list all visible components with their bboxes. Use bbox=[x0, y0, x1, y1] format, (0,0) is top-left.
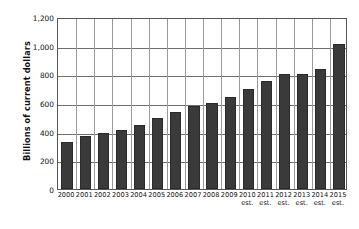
gridline-vertical bbox=[76, 19, 77, 189]
x-axis-year: 2001 bbox=[76, 191, 93, 199]
x-axis-tick-label: 2010est. bbox=[239, 192, 256, 207]
bar bbox=[225, 97, 236, 189]
bar bbox=[243, 89, 254, 189]
bar bbox=[297, 74, 308, 189]
gridline-vertical bbox=[131, 19, 132, 189]
x-axis-tick-label: 2012est. bbox=[275, 192, 292, 207]
x-axis-year: 2015 bbox=[330, 191, 347, 199]
bar bbox=[152, 118, 163, 189]
y-axis-tick-label: 600 bbox=[0, 100, 54, 109]
gridline-vertical bbox=[112, 19, 113, 189]
y-axis-tick-label: 200 bbox=[0, 157, 54, 166]
bar bbox=[333, 44, 344, 189]
x-axis-estimate-marker: est. bbox=[257, 200, 274, 208]
bar bbox=[315, 69, 326, 189]
y-axis-tick-label: 0 bbox=[0, 186, 54, 195]
bar bbox=[261, 81, 272, 189]
x-axis-year: 2012 bbox=[275, 191, 292, 199]
plot-area bbox=[57, 18, 347, 190]
gridline-vertical bbox=[203, 19, 204, 189]
y-axis-tick-label: 1,200 bbox=[0, 14, 54, 23]
y-axis-tick-label: 400 bbox=[0, 128, 54, 137]
y-axis-tick-label: 1,000 bbox=[0, 42, 54, 51]
bar bbox=[170, 112, 181, 189]
x-axis-tick-label: 2000 bbox=[58, 192, 75, 200]
x-axis-tick-label: 2011est. bbox=[257, 192, 274, 207]
x-axis-tick-label: 2001 bbox=[76, 192, 93, 200]
gridline-vertical bbox=[330, 19, 331, 189]
x-axis-estimate-marker: est. bbox=[330, 200, 347, 208]
gridline-vertical bbox=[149, 19, 150, 189]
bar bbox=[61, 142, 72, 189]
gridline-vertical bbox=[185, 19, 186, 189]
x-axis-year: 2009 bbox=[221, 191, 238, 199]
x-axis-year: 2010 bbox=[239, 191, 256, 199]
x-axis-tick-label: 2002 bbox=[94, 192, 111, 200]
x-axis-year: 2011 bbox=[257, 191, 274, 199]
x-axis-year: 2008 bbox=[203, 191, 220, 199]
gridline-vertical bbox=[167, 19, 168, 189]
gridline-vertical bbox=[257, 19, 258, 189]
x-axis-tick-label: 2009 bbox=[221, 192, 238, 200]
x-axis-estimate-marker: est. bbox=[275, 200, 292, 208]
x-axis-year: 2000 bbox=[58, 191, 75, 199]
x-axis-year: 2006 bbox=[166, 191, 183, 199]
x-axis-estimate-marker: est. bbox=[239, 200, 256, 208]
gridline-vertical bbox=[239, 19, 240, 189]
x-axis-tick-label: 2014est. bbox=[311, 192, 328, 207]
gridline-vertical bbox=[94, 19, 95, 189]
x-axis-tick-label: 2015est. bbox=[330, 192, 347, 207]
bar bbox=[188, 106, 199, 189]
x-axis-estimate-marker: est. bbox=[311, 200, 328, 208]
x-axis-year: 2003 bbox=[112, 191, 129, 199]
x-axis-estimate-marker: est. bbox=[293, 200, 310, 208]
bar bbox=[80, 136, 91, 189]
bar bbox=[134, 125, 145, 189]
x-axis-year: 2004 bbox=[130, 191, 147, 199]
bar bbox=[206, 103, 217, 189]
bar bbox=[279, 74, 290, 189]
x-axis-year: 2007 bbox=[185, 191, 202, 199]
x-axis-year: 2013 bbox=[293, 191, 310, 199]
x-axis-tick-label: 2003 bbox=[112, 192, 129, 200]
x-axis-tick-label: 2007 bbox=[185, 192, 202, 200]
gridline-vertical bbox=[276, 19, 277, 189]
gridline-vertical bbox=[221, 19, 222, 189]
x-axis-year: 2014 bbox=[311, 191, 328, 199]
x-axis-year: 2005 bbox=[148, 191, 165, 199]
x-axis-tick-label: 2006 bbox=[166, 192, 183, 200]
x-axis-tick-label: 2004 bbox=[130, 192, 147, 200]
gridline-vertical bbox=[312, 19, 313, 189]
x-axis-tick-label: 2013est. bbox=[293, 192, 310, 207]
x-axis-year: 2002 bbox=[94, 191, 111, 199]
bar bbox=[116, 130, 127, 189]
x-axis-tick-label: 2008 bbox=[203, 192, 220, 200]
bar bbox=[98, 133, 109, 189]
y-axis-tick-label: 800 bbox=[0, 71, 54, 80]
bar-chart-figure: Billions of current dollars 020040060080… bbox=[0, 0, 359, 229]
gridline-horizontal bbox=[58, 48, 346, 49]
gridline-vertical bbox=[294, 19, 295, 189]
x-axis-tick-label: 2005 bbox=[148, 192, 165, 200]
